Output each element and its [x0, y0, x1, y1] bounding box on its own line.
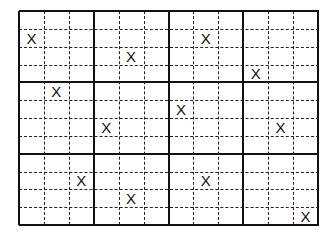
cell-divider-horizontal — [19, 29, 319, 30]
cell-divider-horizontal — [19, 207, 319, 208]
cell-divider-horizontal — [19, 65, 319, 66]
block-border-horizontal — [19, 153, 319, 155]
x-mark: X — [294, 208, 318, 225]
x-mark: X — [244, 65, 268, 82]
x-mark: X — [19, 30, 43, 47]
cell-divider-horizontal — [19, 189, 319, 190]
cell-divider-horizontal — [19, 172, 319, 173]
x-mark: X — [194, 30, 218, 47]
x-mark: X — [69, 172, 93, 189]
block-border-horizontal — [19, 10, 319, 12]
x-mark: X — [44, 83, 68, 100]
x-mark: X — [194, 172, 218, 189]
cell-divider-horizontal — [19, 47, 319, 48]
block-border-horizontal — [19, 224, 319, 226]
x-mark: X — [269, 119, 293, 136]
puzzle-grid: XXXXXXXXXXXX — [19, 11, 318, 225]
cell-divider-horizontal — [19, 136, 319, 137]
x-mark: X — [119, 48, 143, 65]
x-mark: X — [169, 101, 193, 118]
x-mark: X — [94, 119, 118, 136]
x-mark: X — [119, 190, 143, 207]
